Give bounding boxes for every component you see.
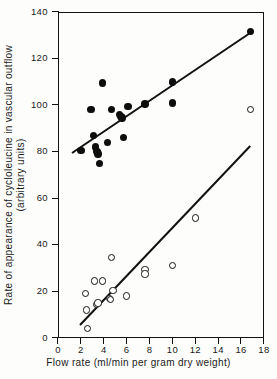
x-tick-label: 18 (253, 344, 275, 355)
figure-scatter-plot: 020406080100120140 024681012141618 Rate … (0, 0, 277, 379)
x-axis-title: Flow rate (ml/min per gram dry weight) (0, 357, 277, 368)
y-tick-mark (52, 198, 59, 199)
x-tick-label: 8 (139, 344, 161, 355)
x-tick-label: 6 (116, 344, 138, 355)
data-point-filled-circles (169, 99, 176, 106)
plot-frame (58, 12, 264, 338)
data-point-filled-circles (141, 100, 148, 107)
y-tick-mark (52, 58, 59, 59)
y-tick-mark (52, 11, 59, 12)
data-point-open-circles (109, 287, 116, 294)
data-point-open-circles (192, 214, 199, 221)
data-point-filled-circles (96, 160, 103, 167)
data-point-filled-circles (124, 103, 131, 110)
data-point-filled-circles (169, 78, 176, 85)
y-tick-mark (52, 151, 59, 152)
data-point-filled-circles (94, 150, 101, 157)
data-point-filled-circles (77, 147, 84, 154)
x-tick-label: 4 (93, 344, 115, 355)
data-point-open-circles (91, 277, 98, 284)
x-tick-label: 16 (230, 344, 252, 355)
y-axis-title-line1: Rate of appearance of cycloleucine in va… (3, 12, 14, 338)
data-point-open-circles (83, 306, 90, 313)
data-point-open-circles (141, 270, 148, 277)
y-axis-title-line2: (arbitrary units) (15, 12, 26, 338)
x-tick-label: 14 (207, 344, 229, 355)
data-point-filled-circles (99, 79, 106, 86)
x-tick-label: 0 (47, 344, 69, 355)
data-point-filled-circles (118, 114, 125, 121)
x-tick-label: 12 (184, 344, 206, 355)
y-tick-mark (52, 291, 59, 292)
x-tick-label: 2 (70, 344, 92, 355)
x-tick-label: 10 (161, 344, 183, 355)
data-point-open-circles (94, 299, 101, 306)
y-tick-mark (52, 244, 59, 245)
y-tick-mark (52, 104, 59, 105)
data-point-filled-circles (104, 139, 111, 146)
data-point-open-circles (99, 277, 106, 284)
data-point-open-circles (123, 292, 130, 299)
